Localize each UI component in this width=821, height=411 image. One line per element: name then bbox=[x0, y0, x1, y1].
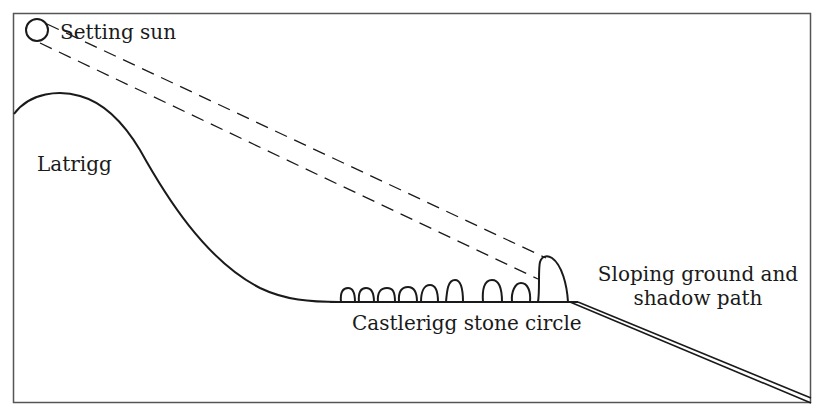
sloping-ground-label-line1: Sloping ground and bbox=[588, 262, 808, 286]
hill-label: Latrigg bbox=[37, 152, 112, 176]
sight-lines bbox=[40, 24, 546, 279]
stone bbox=[378, 288, 395, 302]
stone-row bbox=[341, 256, 568, 302]
stone bbox=[512, 283, 530, 302]
stone bbox=[421, 285, 438, 302]
stone bbox=[341, 288, 355, 302]
diagram-canvas bbox=[0, 0, 821, 411]
stone bbox=[359, 288, 374, 302]
tall-stone bbox=[538, 256, 568, 302]
diagram-frame bbox=[14, 14, 811, 403]
stone bbox=[399, 287, 417, 302]
stone bbox=[446, 280, 463, 302]
sloping-ground bbox=[570, 302, 811, 403]
stone-circle-label: Castlerigg stone circle bbox=[352, 311, 582, 335]
hill-latrigg bbox=[14, 93, 340, 302]
sun-label: Setting sun bbox=[60, 20, 176, 44]
sun-icon bbox=[26, 19, 48, 41]
sloping-ground-label-line2: shadow path bbox=[588, 286, 808, 310]
stone bbox=[483, 280, 502, 302]
sloping-ground-label: Sloping ground and shadow path bbox=[588, 262, 808, 310]
